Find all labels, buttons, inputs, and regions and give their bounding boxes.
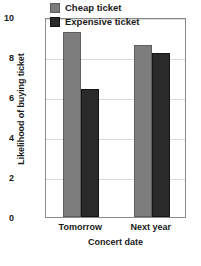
bar-tomorrow-cheap-ticket: [63, 32, 81, 217]
legend-swatch-expensive-ticket: [50, 17, 60, 27]
y-axis-tick-label: 2: [0, 173, 14, 183]
y-axis-tick-label: 10: [0, 13, 14, 23]
bar-next-year-cheap-ticket: [134, 45, 152, 217]
y-axis-title: Likelihood of buying ticket: [16, 34, 26, 184]
y-axis-tick-label: 0: [0, 213, 14, 223]
bar-chart-figure: Likelihood of buying ticket 0246810 Chea…: [0, 0, 201, 266]
bar-tomorrow-expensive-ticket: [81, 89, 99, 217]
legend-item-expensive-ticket: Expensive ticket: [50, 16, 139, 27]
y-axis-tick-label: 8: [0, 53, 14, 63]
bar-next-year-expensive-ticket: [152, 53, 170, 217]
legend-label-expensive-ticket: Expensive ticket: [65, 16, 139, 27]
legend-item-cheap-ticket: Cheap ticket: [50, 2, 139, 13]
x-axis-title: Concert date: [45, 237, 186, 247]
legend-label-cheap-ticket: Cheap ticket: [65, 2, 122, 13]
legend-swatch-cheap-ticket: [50, 3, 60, 13]
plot-area: [45, 18, 186, 218]
y-axis-tick-label: 4: [0, 133, 14, 143]
x-axis-tick-label: Next year: [111, 222, 191, 232]
chart-legend: Cheap ticket Expensive ticket: [50, 2, 139, 27]
y-axis-tick-label: 6: [0, 93, 14, 103]
x-axis-tick-label: Tomorrow: [40, 222, 120, 232]
